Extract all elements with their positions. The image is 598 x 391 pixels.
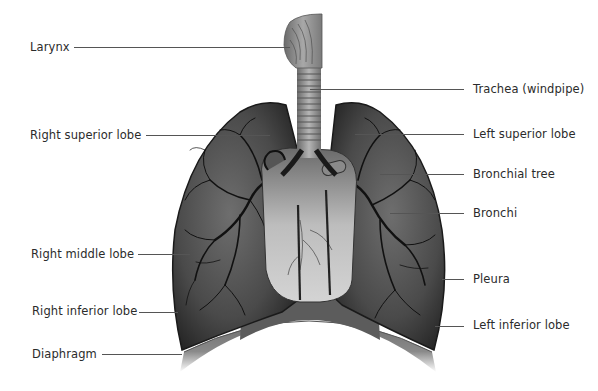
leader-line-diaphragm	[102, 354, 182, 355]
lungs-illustration	[0, 0, 598, 391]
leader-line-left-superior-lobe	[355, 134, 464, 135]
leader-line-larynx	[74, 47, 290, 48]
label-trachea: Trachea (windpipe)	[473, 82, 584, 96]
leader-line-right-middle-lobe	[138, 254, 190, 255]
leader-line-trachea	[310, 89, 464, 90]
leader-line-pleura	[442, 279, 464, 280]
leader-line-bronchial-tree	[380, 174, 464, 175]
leader-line-bronchi	[390, 213, 464, 214]
label-left-superior-lobe: Left superior lobe	[473, 127, 576, 141]
label-diaphragm: Diaphragm	[32, 347, 97, 361]
label-right-superior-lobe: Right superior lobe	[30, 128, 141, 142]
label-right-middle-lobe: Right middle lobe	[31, 247, 134, 261]
label-bronchi: Bronchi	[473, 206, 517, 220]
label-larynx: Larynx	[30, 40, 70, 54]
leader-line-left-inferior-lobe	[435, 326, 464, 327]
respiratory-diagram: Larynx Right superior lobe Right middle …	[0, 0, 598, 391]
label-bronchial-tree: Bronchial tree	[473, 167, 555, 181]
trachea-shape	[297, 68, 321, 158]
label-left-inferior-lobe: Left inferior lobe	[473, 318, 570, 332]
leader-line-right-superior-lobe	[146, 135, 270, 136]
label-pleura: Pleura	[473, 272, 510, 286]
label-right-inferior-lobe: Right inferior lobe	[32, 304, 137, 318]
larynx-shape	[284, 14, 322, 68]
leader-line-right-inferior-lobe	[139, 312, 178, 313]
